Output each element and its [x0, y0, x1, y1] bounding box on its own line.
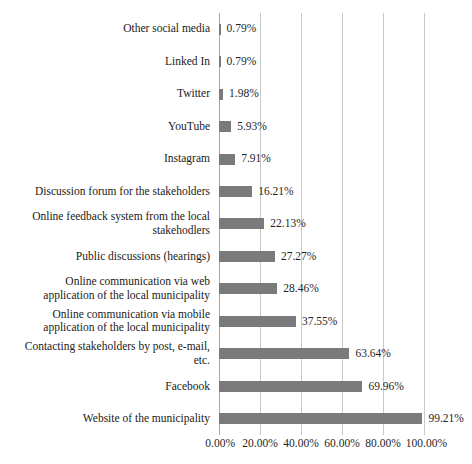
category-label: Website of the municipality [0, 403, 210, 435]
bar[interactable] [219, 218, 264, 229]
bar-row: 7.91% [219, 143, 424, 175]
bar-rows: 0.79%0.79%1.98%5.93%7.91%16.21%22.13%27.… [219, 13, 424, 435]
category-label-line: Website of the municipality [83, 412, 210, 426]
category-label: Linked In [0, 45, 210, 77]
bar[interactable] [219, 348, 349, 359]
bar-value-label: 1.98% [229, 88, 259, 100]
bar-value-label: 0.79% [227, 23, 257, 35]
bar-chart: Other social mediaLinked InTwitterYouTub… [0, 0, 472, 464]
plot-area: 0.79%0.79%1.98%5.93%7.91%16.21%22.13%27.… [219, 13, 424, 435]
category-label: Online feedback system from the localsta… [0, 208, 210, 240]
bar-value-label: 16.21% [258, 186, 293, 198]
bar[interactable] [219, 381, 362, 392]
x-axis-tick-label: 80.00% [365, 438, 400, 450]
x-axis-tick-label: 20.00% [242, 438, 277, 450]
bar-row: 22.13% [219, 208, 424, 240]
bar[interactable] [219, 413, 422, 424]
category-label-line: Twitter [177, 87, 210, 101]
bar-value-label: 27.27% [281, 251, 316, 263]
bar-row: 5.93% [219, 110, 424, 142]
bar-value-label: 69.96% [368, 381, 403, 393]
category-label: Twitter [0, 78, 210, 110]
bar[interactable] [219, 121, 231, 132]
x-axis-tick-label: 0.00% [205, 438, 235, 450]
category-label-line: Online communication via mobile [43, 308, 210, 322]
category-label-line: Public discussions (hearings) [76, 250, 210, 264]
x-axis: 0.00%20.00%40.00%60.00%80.00%100.00% [219, 435, 424, 455]
bar-row: 27.27% [219, 240, 424, 272]
bar-row: 63.64% [219, 338, 424, 370]
x-axis-tick-label: 40.00% [283, 438, 318, 450]
category-label-line: application of the local municipality [43, 321, 210, 335]
category-axis: Other social mediaLinked InTwitterYouTub… [0, 13, 216, 435]
bar-row: 99.21% [219, 403, 424, 435]
bar[interactable] [219, 316, 296, 327]
bar-row: 1.98% [219, 78, 424, 110]
bar-row: 28.46% [219, 273, 424, 305]
category-label: Discussion forum for the stakeholders [0, 175, 210, 207]
bar[interactable] [219, 89, 223, 100]
bar[interactable] [219, 186, 252, 197]
category-label: Public discussions (hearings) [0, 240, 210, 272]
bar[interactable] [219, 24, 221, 35]
x-axis-tick-label: 100.00% [406, 438, 447, 450]
category-label-line: YouTube [168, 120, 210, 134]
bar-value-label: 7.91% [241, 153, 271, 165]
bar[interactable] [219, 56, 221, 67]
category-label-line: Online communication via web [43, 275, 210, 289]
category-label-line: stakehodlers [32, 224, 210, 238]
category-label: Contacting stakeholders by post, e-mail,… [0, 338, 210, 370]
bar-value-label: 28.46% [283, 283, 318, 295]
bar-row: 16.21% [219, 175, 424, 207]
bar-row: 0.79% [219, 45, 424, 77]
bar-value-label: 37.55% [302, 316, 337, 328]
category-label: Online communication via mobileapplicati… [0, 305, 210, 337]
category-label-line: Linked In [165, 55, 210, 69]
bar-value-label: 22.13% [270, 218, 305, 230]
category-label-line: etc. [25, 354, 210, 368]
bar-row: 69.96% [219, 370, 424, 402]
category-label: YouTube [0, 110, 210, 142]
category-label-line: Other social media [123, 22, 210, 36]
bar-value-label: 0.79% [227, 56, 257, 68]
x-axis-tick-label: 60.00% [324, 438, 359, 450]
category-label-line: Discussion forum for the stakeholders [35, 185, 210, 199]
bar[interactable] [219, 283, 277, 294]
category-label: Facebook [0, 370, 210, 402]
bar-row: 37.55% [219, 305, 424, 337]
category-label-line: Online feedback system from the local [32, 210, 210, 224]
category-label: Instagram [0, 143, 210, 175]
bar-value-label: 99.21% [428, 413, 463, 425]
category-label-line: application of the local municipality [43, 289, 210, 303]
category-label: Online communication via webapplication … [0, 273, 210, 305]
gridline-10000 [424, 13, 425, 435]
category-label-line: Instagram [164, 152, 210, 166]
bar[interactable] [219, 154, 235, 165]
category-label: Other social media [0, 13, 210, 45]
bar-value-label: 63.64% [355, 348, 390, 360]
bar[interactable] [219, 251, 275, 262]
category-label-line: Facebook [165, 380, 210, 394]
bar-row: 0.79% [219, 13, 424, 45]
bar-value-label: 5.93% [237, 121, 267, 133]
category-label-line: Contacting stakeholders by post, e-mail, [25, 340, 210, 354]
